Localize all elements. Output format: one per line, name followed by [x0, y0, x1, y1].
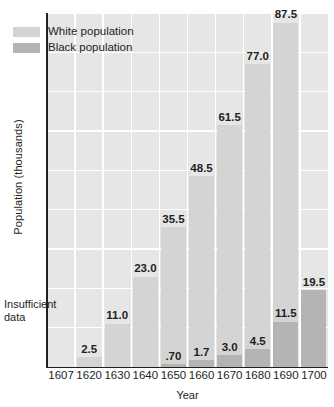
x-tick-1700: 1700: [294, 370, 334, 382]
value-label-white-1640: 23.0: [126, 263, 164, 275]
insufficient-data-line1: Insufficient: [4, 298, 56, 311]
value-label-white-1620: 2.5: [70, 344, 108, 356]
column-separator-1620: [74, 13, 76, 367]
legend: White population Black population: [13, 25, 134, 57]
legend-label-black: Black population: [48, 42, 132, 54]
bar-white-1630: [105, 324, 130, 367]
x-axis-title: Year: [47, 389, 328, 401]
legend-item-black: Black population: [13, 41, 134, 54]
plot-area: 2.511.023.035.5.7048.51.761.53.077.04.58…: [47, 13, 328, 367]
bar-black-1690: [273, 322, 298, 367]
bar-white-1680: [245, 64, 270, 367]
value-label-white-1630: 11.0: [98, 310, 136, 322]
value-label-black-1690: 11.5: [267, 308, 305, 320]
value-label-white-1680: 77.0: [239, 51, 277, 63]
insufficient-data-annotation: Insufficient data: [4, 298, 56, 323]
value-label-black-1680: 4.5: [239, 336, 277, 348]
bar-white-1660: [189, 176, 214, 367]
legend-label-white: White population: [48, 26, 134, 38]
bar-black-1680: [245, 349, 270, 367]
value-label-white-1650: 35.5: [154, 214, 192, 226]
value-label-black-1700: 19.5: [295, 277, 333, 289]
value-label-white-1690: 87.5: [267, 9, 305, 21]
bar-black-1700: [301, 290, 326, 367]
value-label-white-1660: 48.5: [182, 163, 220, 175]
population-bar-chart: Population (thousands) 01020304050607080…: [0, 0, 334, 407]
bar-white-1670: [217, 125, 242, 367]
x-axis-line: [46, 367, 328, 369]
value-label-white-1670: 61.5: [211, 112, 249, 124]
legend-swatch-white-icon: [13, 27, 40, 37]
insufficient-data-line2: data: [4, 311, 56, 324]
y-axis-title: Population (thousands): [12, 67, 24, 287]
bar-black-1670: [217, 355, 242, 367]
legend-swatch-black-icon: [13, 43, 40, 53]
legend-item-white: White population: [13, 25, 134, 38]
